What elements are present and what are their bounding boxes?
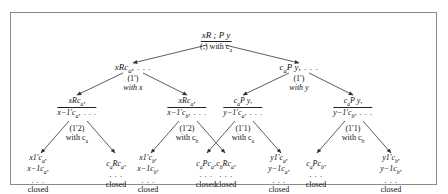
leaf-node: x1′ca, x−1ca, . . . closed xyxy=(27,153,48,194)
rule-level2-right: (1′) with y xyxy=(289,75,308,93)
node-level2-right: caP y, . . . xyxy=(280,63,319,75)
leaf-node: caPcb, . . . closed xyxy=(306,159,326,189)
leaf-node: y1′cb, y−1cb, . . . closed xyxy=(380,153,401,194)
leaf-node: x1′cb, x−1cb, . . . closed xyxy=(137,153,158,194)
node-level3-3: caP y, y−1′ca, . . . xyxy=(223,97,262,118)
rule-level2-left: (1′) with x xyxy=(123,75,142,93)
leaf-node: caPca, . . . closed xyxy=(196,159,216,189)
figure-frame: xR ; P y (;) with ca xRca, . . . caP y, … xyxy=(10,12,437,185)
root-node: xR ; P y xyxy=(201,31,232,42)
leaf-node: caRca, . . . closed xyxy=(106,159,126,189)
node-level3-2: xRca, x−1′cb, . . . xyxy=(167,97,206,118)
rule-level3-2: (1′2) with cb xyxy=(176,125,199,144)
rule-level3-4: (1′1) with cb xyxy=(342,125,365,144)
root-rule: (;) with ca xyxy=(200,43,232,53)
root-label: xR ; P y xyxy=(202,30,231,40)
rule-level3-1: (1′2) with ca xyxy=(66,125,88,144)
node-level2-left: xRca, . . . xyxy=(115,63,152,75)
rule-level3-3: (1′1) with ca xyxy=(232,125,254,144)
node-level3-1: xRca, x−1′ca, . . . xyxy=(57,97,96,118)
proof-tree-stage: xR ; P y (;) with ca xRca, . . . caP y, … xyxy=(11,13,438,186)
leaf-node: y1′ca, y−1ca, . . . closed xyxy=(268,153,289,194)
node-level3-4: caP y, y−1′cb, . . . xyxy=(333,97,372,118)
leaf-node: cbRca, . . . closed xyxy=(216,159,236,189)
